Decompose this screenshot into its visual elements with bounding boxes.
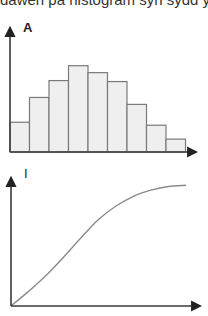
histogram-bar — [147, 125, 167, 152]
cumulative-y-label: I — [24, 166, 28, 181]
histogram-bar — [10, 122, 30, 152]
histogram-bar — [108, 82, 128, 152]
histogram-bar — [88, 73, 108, 152]
histogram-bars — [10, 66, 186, 152]
histogram-bar — [127, 104, 147, 152]
histogram-bar — [49, 81, 69, 152]
charts-canvas: A I — [0, 0, 208, 316]
histogram-bar — [30, 97, 50, 152]
histogram-chart: A — [10, 20, 196, 152]
cumulative-chart: I — [11, 166, 200, 306]
histogram-bar — [69, 66, 89, 152]
histogram-bar — [166, 139, 186, 152]
histogram-y-label: A — [23, 20, 33, 35]
cumulative-curve — [11, 185, 186, 306]
